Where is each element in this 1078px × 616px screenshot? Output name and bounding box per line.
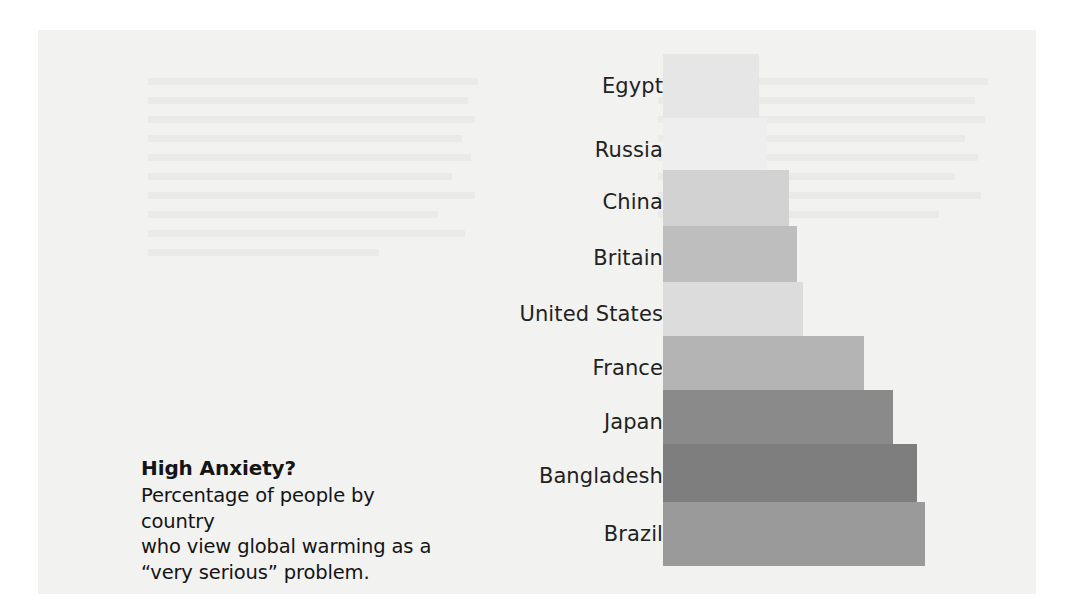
bar-label-russia: Russia — [595, 138, 663, 162]
bar-label-bangladesh: Bangladesh — [539, 464, 663, 488]
bar-label-egypt: Egypt — [602, 74, 663, 98]
caption-line-1: Percentage of people by country — [141, 483, 451, 534]
bar-label-china: China — [603, 190, 664, 214]
bar-china — [663, 170, 789, 234]
chart-row: Egypt — [38, 54, 1036, 118]
chart-row: China — [38, 170, 1036, 234]
bar-label-britain: Britain — [593, 246, 663, 270]
bar-label-france: France — [593, 356, 663, 380]
caption-line-3: “very serious” problem. — [141, 560, 451, 586]
bar-egypt — [663, 54, 759, 118]
chart-caption: High Anxiety? Percentage of people by co… — [141, 455, 451, 585]
chart-row: Britain — [38, 226, 1036, 290]
bar-brazil — [663, 502, 925, 566]
caption-title: High Anxiety? — [141, 455, 451, 482]
scanned-page-panel: Egypt Russia China Britain United States — [38, 30, 1036, 594]
bar-label-brazil: Brazil — [604, 522, 663, 546]
bar-label-japan: Japan — [604, 410, 663, 434]
page-root: Egypt Russia China Britain United States — [0, 0, 1078, 616]
bar-label-united-states: United States — [519, 302, 663, 326]
bar-bangladesh — [663, 444, 917, 508]
bar-britain — [663, 226, 797, 290]
caption-line-2: who view global warming as a — [141, 534, 451, 560]
